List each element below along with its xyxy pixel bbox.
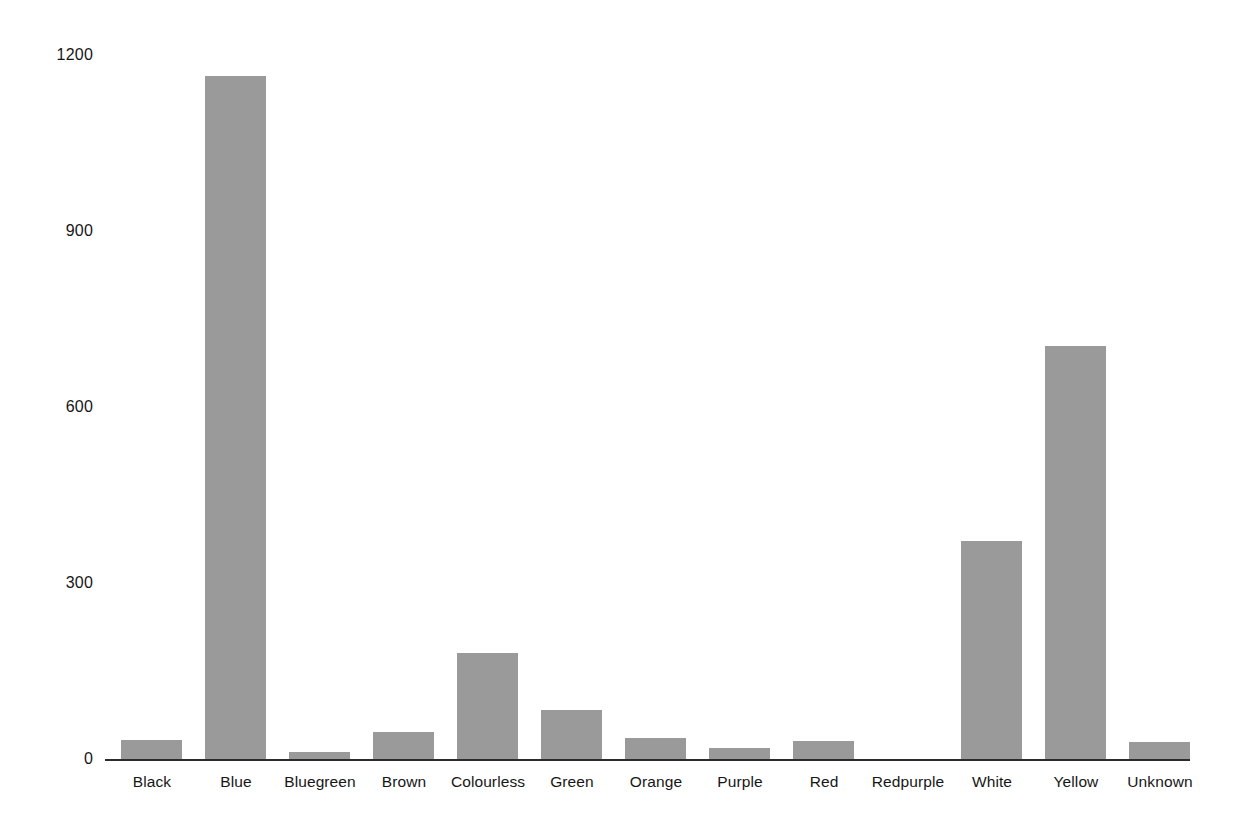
bar[interactable]	[373, 732, 434, 759]
bar[interactable]	[961, 541, 1022, 759]
x-tick-label: Purple	[698, 773, 782, 790]
plot-area: BlackBlueBluegreenBrownColourlessGreenOr…	[105, 0, 1200, 822]
x-tick-label: Green	[530, 773, 614, 790]
x-tick-label: Black	[110, 773, 194, 790]
x-tick-label: Bluegreen	[262, 773, 378, 790]
y-tick-label: 900	[0, 223, 105, 239]
bar[interactable]	[709, 748, 770, 759]
bar[interactable]	[289, 752, 350, 759]
bar[interactable]	[1129, 742, 1190, 759]
bar[interactable]	[121, 740, 182, 759]
y-tick-label: 0	[0, 751, 105, 767]
x-tick-label: Colourless	[430, 773, 546, 790]
x-tick-label: White	[950, 773, 1034, 790]
x-axis-line	[105, 759, 1190, 761]
x-tick-label: Unknown	[1118, 773, 1202, 790]
x-tick-label: Yellow	[1034, 773, 1118, 790]
bar-chart: 12009006003000 BlackBlueBluegreenBrownCo…	[0, 0, 1236, 822]
bar[interactable]	[541, 710, 602, 759]
bar[interactable]	[793, 741, 854, 759]
y-tick-label: 1200	[0, 47, 105, 63]
y-tick-label: 600	[0, 399, 105, 415]
x-tick-label: Redpurple	[850, 773, 966, 790]
y-tick-label: 300	[0, 575, 105, 591]
y-axis: 12009006003000	[0, 0, 105, 822]
bar[interactable]	[457, 653, 518, 759]
bar[interactable]	[205, 76, 266, 759]
bar[interactable]	[625, 738, 686, 759]
x-tick-label: Orange	[614, 773, 698, 790]
bar[interactable]	[1045, 346, 1106, 759]
